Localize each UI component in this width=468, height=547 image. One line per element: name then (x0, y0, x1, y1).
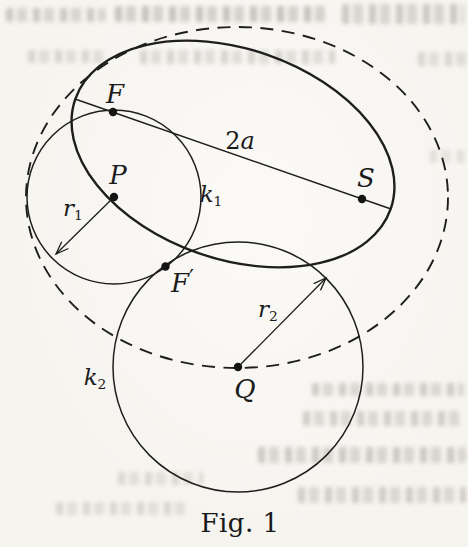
point-F-prime (161, 262, 169, 270)
label-P: P (109, 162, 127, 188)
point-S (358, 195, 366, 203)
r2-radius-arrow (238, 278, 326, 367)
label-S: S (357, 165, 375, 191)
label-k1: k1 (200, 183, 223, 208)
geometry-figure-canvas (0, 0, 468, 547)
point-P (110, 193, 118, 201)
dashed-ellipse (26, 27, 448, 368)
point-F (109, 108, 117, 116)
label-F: F (106, 81, 124, 107)
scanned-book-page: FPSF′Q2ak1k2r1r2 Fig. 1 (0, 0, 468, 547)
label-Q: Q (234, 376, 255, 402)
label-F-prime: F′ (171, 266, 193, 297)
point-Q (234, 363, 242, 371)
label-k2: k2 (84, 366, 107, 391)
label-r2: r2 (258, 298, 278, 323)
figure-caption: Fig. 1 (200, 508, 279, 538)
label-r1: r1 (63, 197, 83, 222)
label-2a: 2a (225, 129, 255, 153)
